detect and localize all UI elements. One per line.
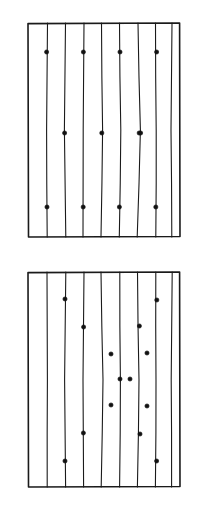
figure-sheet: Two-panel grid of parallel lines with ma…	[0, 0, 199, 515]
marked-point	[128, 377, 132, 381]
marked-point	[145, 351, 149, 355]
marked-point	[109, 352, 113, 356]
marked-point	[118, 377, 122, 381]
panel-top-line-group	[47, 23, 172, 237]
panel-border	[28, 272, 180, 487]
marked-point	[63, 459, 67, 463]
panel-top-frame	[28, 23, 180, 237]
grid-line	[137, 272, 139, 487]
marked-point	[45, 205, 49, 209]
marked-point	[81, 50, 85, 54]
marked-point	[109, 403, 113, 407]
marked-point	[63, 131, 67, 135]
panel-bottom-dot-group	[63, 297, 159, 463]
grid-line	[155, 272, 156, 487]
marked-point	[45, 50, 49, 54]
panel-top	[0, 0, 199, 260]
marked-point	[81, 431, 85, 435]
marked-point	[63, 297, 67, 301]
panel-bottom-line-group	[47, 272, 172, 487]
marked-point	[137, 324, 141, 328]
panel-bottom	[0, 255, 199, 515]
marked-point	[139, 131, 143, 135]
panel-border	[28, 23, 180, 237]
marked-point	[155, 298, 159, 302]
marked-point	[117, 205, 121, 209]
panel-top-drawing	[0, 0, 199, 260]
marked-point	[154, 205, 158, 209]
grid-line	[101, 272, 103, 487]
panel-bottom-drawing	[0, 255, 199, 515]
marked-point	[100, 131, 104, 135]
grid-line	[137, 23, 140, 237]
grid-line	[171, 272, 172, 487]
grid-line	[65, 272, 66, 487]
grid-line	[83, 272, 84, 487]
marked-point	[138, 432, 142, 436]
panel-bottom-frame	[28, 272, 180, 487]
grid-line	[64, 23, 65, 237]
grid-line	[101, 23, 103, 237]
grid-line	[171, 23, 172, 237]
marked-point	[155, 459, 159, 463]
marked-point	[81, 205, 85, 209]
marked-point	[82, 325, 86, 329]
marked-point	[118, 50, 122, 54]
marked-point	[145, 404, 149, 408]
marked-point	[155, 50, 159, 54]
